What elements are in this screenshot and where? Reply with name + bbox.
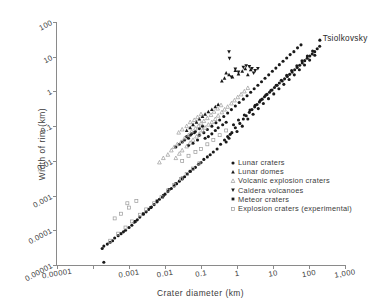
x-tick-label: 1	[234, 269, 240, 279]
legend-item: Caldera volcanoes	[228, 186, 352, 195]
filled-triangle-down-icon	[228, 186, 237, 194]
open-triangle-up-icon	[228, 177, 237, 185]
y-tick-label: 1	[46, 87, 54, 97]
x-tick-label: 10	[268, 268, 279, 278]
legend-item: Lunar craters	[228, 158, 352, 167]
data-points-layer	[57, 22, 345, 265]
crater-scatter-figure: 0.000010.00010.0010.010.11101000.000010.…	[0, 0, 380, 307]
legend-item-label: Explosion craters (experimental)	[237, 204, 352, 213]
legend-item: Meteor craters	[228, 195, 352, 204]
legend-item-label: Meteor craters	[237, 195, 289, 204]
y-tick	[53, 91, 57, 92]
y-tick	[53, 57, 57, 58]
legend: Lunar cratersLunar domesVolcanic explosi…	[228, 158, 352, 213]
legend-item-label: Lunar domes	[237, 167, 284, 176]
annotation-tsiolkovsky: Tsiolkovsky	[323, 34, 368, 43]
y-tick	[53, 22, 57, 23]
open-square-icon	[228, 205, 237, 213]
filled-triangle-up-icon	[228, 168, 237, 176]
y-tick	[53, 126, 57, 127]
series-volcanic-explosion-craters	[158, 86, 250, 164]
y-tick	[53, 161, 57, 162]
y-tick	[53, 196, 57, 197]
x-tick-label: 1,000	[334, 267, 356, 280]
y-tick-label: 0.001	[31, 192, 54, 210]
y-tick-label: 100	[38, 18, 54, 32]
filled-square-icon	[228, 195, 237, 203]
x-tick-label: 0.001	[118, 267, 140, 280]
legend-item-label: Volcanic explosion craters	[237, 176, 330, 185]
legend-item: Volcanic explosion craters	[228, 176, 352, 185]
y-tick	[53, 230, 57, 231]
plot-area: 0.000010.00010.0010.010.11101000.000010.…	[56, 22, 345, 266]
annotation-marker	[318, 39, 321, 42]
y-tick-label: 10	[42, 53, 54, 65]
legend-item: Explosion craters (experimental)	[228, 204, 352, 213]
x-tick	[93, 265, 94, 269]
y-axis-title: Width of rim (km)	[37, 108, 47, 180]
y-tick-label: 0.0001	[27, 226, 54, 246]
filled-circle-icon	[228, 159, 237, 167]
x-axis-title: Crater diameter (km)	[56, 288, 345, 298]
x-tick-label: 0.01	[156, 268, 174, 280]
legend-item-label: Caldera volcanoes	[237, 186, 303, 195]
series-caldera-volcanoes	[227, 50, 260, 79]
x-tick-label: 100	[301, 268, 316, 279]
series-lunar-craters	[101, 43, 322, 264]
legend-item-label: Lunar craters	[237, 158, 285, 167]
x-tick-label: 0.1	[194, 268, 207, 279]
legend-item: Lunar domes	[228, 167, 352, 176]
series-explosion-craters-experimental	[109, 129, 228, 242]
